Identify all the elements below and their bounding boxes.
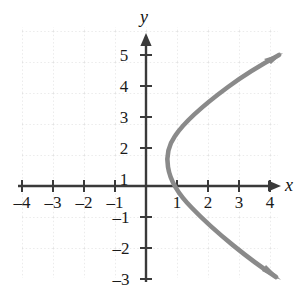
- x-tick-label: 4: [259, 194, 281, 211]
- coordinate-plane: [0, 0, 298, 295]
- graph-figure: y x –4 –3 –2 –1 1 2 3 4 5 4 3 2 1 –1 –2 …: [0, 0, 298, 295]
- y-tick-label: –2: [108, 240, 134, 257]
- y-tick-label: 4: [114, 78, 134, 95]
- x-tick-label: –3: [41, 194, 65, 211]
- y-tick-label: 1: [114, 171, 134, 188]
- x-tick-label: 2: [197, 194, 219, 211]
- x-tick-label: 3: [228, 194, 250, 211]
- x-tick-label: 1: [166, 194, 188, 211]
- y-axis-label: y: [140, 8, 148, 26]
- y-tick-label: –1: [108, 209, 134, 226]
- x-tick-label: –2: [72, 194, 96, 211]
- y-tick-label: –3: [108, 271, 134, 288]
- y-tick-label: 5: [114, 47, 134, 64]
- grid-lines: [22, 27, 278, 278]
- x-tick-label: –4: [10, 194, 34, 211]
- y-tick-label: 3: [114, 109, 134, 126]
- y-tick-label: 2: [114, 140, 134, 157]
- x-axis-label: x: [285, 176, 293, 194]
